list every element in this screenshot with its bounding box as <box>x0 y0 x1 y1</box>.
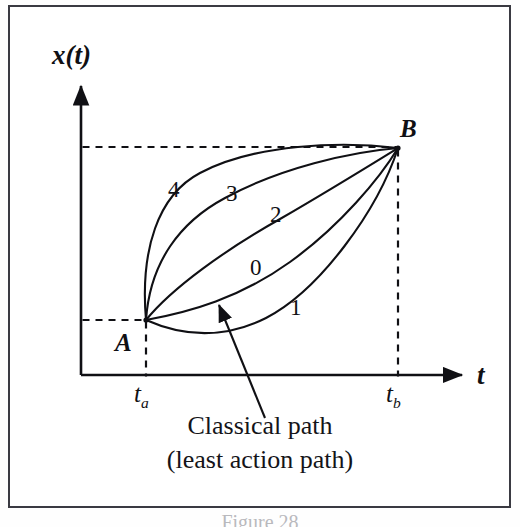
x-tick-ta-base: t <box>134 380 141 407</box>
caption-line-1: Classical path <box>0 413 520 439</box>
path-label-1: 1 <box>290 296 302 319</box>
path-label-2: 2 <box>270 203 282 226</box>
x-tick-ta-sub: a <box>141 394 149 411</box>
figure-caption: Classical path (least action path) <box>0 413 520 465</box>
path-label-3: 3 <box>226 182 238 205</box>
caption-line-2: (least action path) <box>0 447 520 473</box>
x-tick-label-tb: tb <box>386 381 401 411</box>
x-axis-label: t <box>477 362 485 389</box>
point-label-A: A <box>115 330 132 355</box>
x-tick-tb-sub: b <box>393 394 401 411</box>
path-label-4: 4 <box>168 178 180 201</box>
path-label-0: 0 <box>250 256 262 279</box>
point-label-B: B <box>400 116 417 141</box>
y-axis-label: x(t) <box>52 42 91 69</box>
figure-root: x(t) t A B ta tb 4 3 2 0 1 Classical pat… <box>0 0 520 527</box>
x-tick-label-ta: ta <box>134 381 149 411</box>
figure-number-partial: Figure 28 <box>0 511 520 527</box>
x-tick-tb-base: t <box>386 380 393 407</box>
